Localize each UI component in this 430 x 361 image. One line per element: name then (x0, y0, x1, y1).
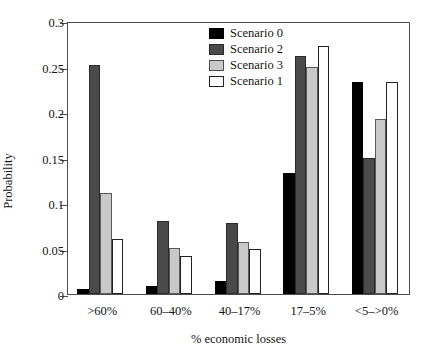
bar (238, 242, 250, 294)
legend-item: Scenario 0 (209, 26, 283, 41)
bar (318, 46, 330, 294)
bar (352, 82, 364, 294)
x-axis-title: % economic losses (67, 332, 410, 347)
legend-item-label: Scenario 2 (230, 43, 283, 56)
bar (100, 193, 112, 294)
x-axis-group-label: <5–>0% (355, 305, 398, 318)
y-axis-tick-label: 0.3 (48, 17, 64, 30)
x-axis-group-label: >60% (87, 305, 117, 318)
x-axis-group-label: 17–5% (290, 305, 325, 318)
x-axis-group-label: 40–17% (219, 305, 261, 318)
bar (112, 239, 124, 295)
bar (306, 67, 318, 295)
legend-swatch-icon (209, 76, 224, 87)
y-axis-tick-label: 0.05 (42, 244, 64, 257)
legend-item-label: Scenario 3 (230, 59, 283, 72)
bar (169, 248, 181, 294)
bar (146, 286, 158, 294)
legend-swatch-icon (209, 44, 224, 55)
legend: Scenario 0Scenario 2Scenario 3Scenario 1 (207, 24, 285, 92)
bar (180, 256, 192, 294)
bar (89, 65, 101, 294)
y-axis-tick-label: 0.15 (42, 153, 64, 166)
bar (283, 173, 295, 294)
y-axis-tick-label: 0.1 (48, 199, 64, 212)
bar (386, 82, 398, 294)
legend-item: Scenario 3 (209, 58, 283, 73)
legend-item-label: Scenario 1 (230, 75, 283, 88)
bar (295, 56, 307, 294)
legend-swatch-icon (209, 28, 224, 39)
y-axis-title: Probability (1, 153, 16, 209)
x-axis-group-label: 60–40% (150, 305, 192, 318)
y-axis-tick-label: 0 (58, 290, 64, 303)
y-axis-tick-label: 0.25 (42, 62, 64, 75)
y-axis-tick-label: 0.2 (48, 108, 64, 121)
legend-item: Scenario 1 (209, 74, 283, 89)
bar (215, 281, 227, 294)
bar (77, 289, 89, 294)
legend-item-label: Scenario 0 (230, 27, 283, 40)
bar (363, 158, 375, 295)
bar (226, 223, 238, 294)
legend-swatch-icon (209, 60, 224, 71)
bar (375, 119, 387, 294)
bar-chart: Probability 00.050.10.150.20.250.3>60%60… (0, 0, 430, 361)
bar (249, 249, 261, 295)
bar (157, 221, 169, 294)
legend-item: Scenario 2 (209, 42, 283, 57)
